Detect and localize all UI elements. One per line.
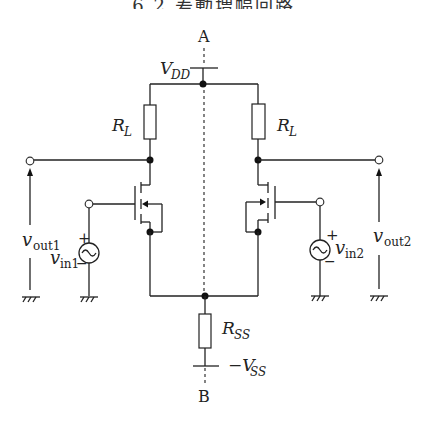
vout2-label: v [373, 225, 383, 246]
tail-branch: R SS −V SS [150, 293, 266, 380]
resistor-rl-left [144, 105, 156, 139]
rl-right-sub: L [288, 125, 297, 139]
input-source-2: + − v in2 [310, 198, 364, 301]
rl-left-label: R [111, 115, 125, 135]
vss-sub: SS [250, 365, 266, 379]
axis-label-b: B [198, 387, 210, 406]
axis-label-a: A [197, 27, 210, 46]
vout1-label: v [22, 229, 32, 250]
body-arrow-icon [142, 201, 148, 208]
resistor-rss [199, 314, 211, 348]
in1-plus: + [78, 229, 91, 247]
vin2-label: v [335, 237, 345, 258]
rss-label: R [221, 318, 235, 338]
vin2-sub: in2 [345, 247, 364, 261]
ground-icon [22, 297, 40, 302]
mosfet-m2 [246, 182, 316, 232]
vdd-rail: V DD [160, 58, 218, 84]
resistor-rl-right [252, 104, 265, 139]
mosfet-m1 [93, 182, 162, 232]
ground-icon [80, 297, 98, 302]
arrow-up-icon [376, 168, 382, 176]
output-1: v out1 [22, 168, 60, 302]
left-branch: R L [26, 84, 162, 296]
arrow-up-icon [27, 168, 33, 176]
vdd-sub: DD [170, 68, 191, 82]
terminal-out2 [375, 156, 383, 164]
vin1-sub: in1 [60, 257, 79, 271]
rl-left-sub: L [123, 125, 132, 139]
in2-minus: − [324, 253, 336, 269]
terminal-gate2 [316, 198, 324, 206]
vout1-sub: out1 [33, 239, 60, 253]
output-2: v out2 [370, 168, 411, 301]
vout2-sub: out2 [384, 235, 411, 249]
ground-icon [311, 296, 329, 301]
node-vdd [200, 81, 207, 88]
circuit-diagram: A B V DD R L [0, 0, 427, 422]
rss-sub: SS [234, 328, 250, 342]
rl-right-label: R [276, 115, 290, 135]
right-branch: R L [246, 84, 383, 296]
terminal-out1 [26, 157, 34, 165]
terminal-gate1 [85, 200, 93, 208]
body-arrow-icon [260, 199, 266, 206]
ground-icon [370, 296, 388, 301]
